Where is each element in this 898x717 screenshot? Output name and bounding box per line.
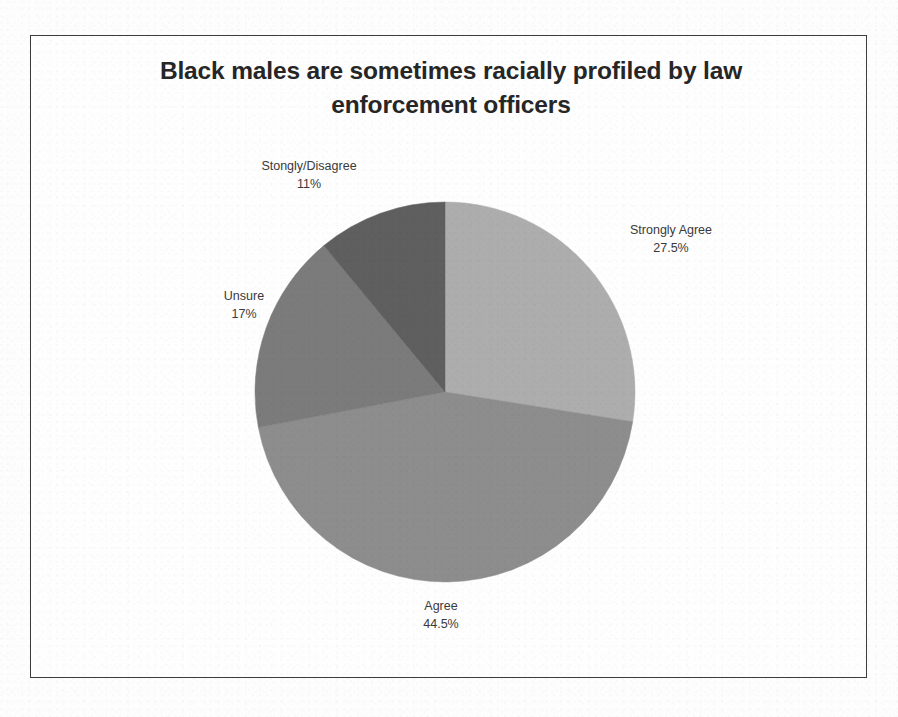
pie-slice-agree: [258, 392, 632, 582]
slice-label-agree: Agree 44.5%: [371, 597, 511, 633]
chart-frame: Black males are sometimes racially profi…: [30, 35, 867, 678]
pie-slice-group: [255, 202, 635, 582]
slice-label-value: 17%: [184, 305, 304, 323]
slice-label-unsure: Unsure 17%: [184, 287, 304, 323]
slice-label-name: Agree: [371, 597, 511, 615]
slice-label-name: Stongly/Disagree: [234, 157, 384, 175]
slice-label-stongly-disagree: Stongly/Disagree 11%: [234, 157, 384, 193]
slice-label-value: 44.5%: [371, 615, 511, 633]
pie-chart-plot-area: Stongly/Disagree 11% Unsure 17% Strongly…: [31, 36, 868, 679]
slice-label-name: Unsure: [184, 287, 304, 305]
slice-label-name: Strongly Agree: [591, 221, 751, 239]
slice-label-strongly-agree: Strongly Agree 27.5%: [591, 221, 751, 257]
slice-label-value: 27.5%: [591, 239, 751, 257]
pie-chart-svg: [31, 36, 868, 679]
slice-label-value: 11%: [234, 175, 384, 193]
